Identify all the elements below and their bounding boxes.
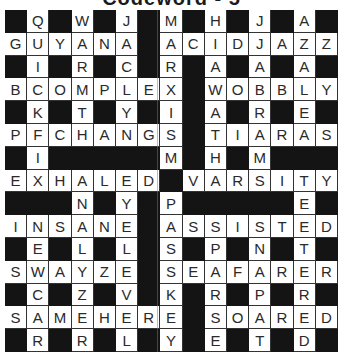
- letter-cell[interactable]: A: [27, 306, 49, 329]
- letter-cell[interactable]: L: [116, 238, 138, 261]
- letter-cell[interactable]: Z: [316, 33, 338, 56]
- letter-cell[interactable]: S: [160, 124, 182, 147]
- letter-cell[interactable]: R: [72, 56, 94, 79]
- letter-cell[interactable]: R: [138, 306, 160, 329]
- letter-cell[interactable]: M: [249, 147, 271, 170]
- letter-cell[interactable]: A: [160, 33, 182, 56]
- letter-cell[interactable]: U: [27, 33, 49, 56]
- letter-cell[interactable]: P: [249, 284, 271, 307]
- letter-cell[interactable]: R: [271, 306, 293, 329]
- letter-cell[interactable]: B: [271, 78, 293, 101]
- letter-cell[interactable]: S: [160, 238, 182, 261]
- letter-cell[interactable]: S: [5, 261, 27, 284]
- letter-cell[interactable]: M: [49, 306, 71, 329]
- letter-cell[interactable]: F: [227, 261, 249, 284]
- letter-cell[interactable]: C: [27, 78, 49, 101]
- letter-cell[interactable]: N: [72, 192, 94, 215]
- letter-cell[interactable]: I: [27, 147, 49, 170]
- letter-cell[interactable]: S: [49, 215, 71, 238]
- letter-cell[interactable]: E: [116, 261, 138, 284]
- letter-cell[interactable]: H: [205, 10, 227, 33]
- letter-cell[interactable]: R: [249, 101, 271, 124]
- letter-cell[interactable]: G: [138, 124, 160, 147]
- letter-cell[interactable]: Z: [294, 33, 316, 56]
- letter-cell[interactable]: I: [205, 33, 227, 56]
- letter-cell[interactable]: L: [294, 78, 316, 101]
- letter-cell[interactable]: O: [227, 306, 249, 329]
- letter-cell[interactable]: E: [183, 261, 205, 284]
- letter-cell[interactable]: L: [72, 238, 94, 261]
- letter-cell[interactable]: I: [227, 215, 249, 238]
- letter-cell[interactable]: Z: [72, 284, 94, 307]
- letter-cell[interactable]: A: [160, 215, 182, 238]
- letter-cell[interactable]: R: [227, 170, 249, 193]
- letter-cell[interactable]: A: [249, 306, 271, 329]
- letter-cell[interactable]: A: [294, 56, 316, 79]
- letter-cell[interactable]: E: [294, 261, 316, 284]
- letter-cell[interactable]: N: [249, 238, 271, 261]
- letter-cell[interactable]: J: [116, 10, 138, 33]
- letter-cell[interactable]: Q: [27, 10, 49, 33]
- letter-cell[interactable]: L: [116, 78, 138, 101]
- letter-cell[interactable]: D: [316, 306, 338, 329]
- letter-cell[interactable]: V: [183, 170, 205, 193]
- letter-cell[interactable]: W: [205, 78, 227, 101]
- letter-cell[interactable]: E: [138, 78, 160, 101]
- letter-cell[interactable]: E: [27, 238, 49, 261]
- letter-cell[interactable]: A: [116, 33, 138, 56]
- letter-cell[interactable]: E: [294, 101, 316, 124]
- letter-cell[interactable]: P: [94, 78, 116, 101]
- letter-cell[interactable]: P: [5, 124, 27, 147]
- letter-cell[interactable]: D: [294, 329, 316, 352]
- letter-cell[interactable]: R: [271, 261, 293, 284]
- letter-cell[interactable]: S: [205, 306, 227, 329]
- letter-cell[interactable]: E: [294, 215, 316, 238]
- letter-cell[interactable]: S: [249, 215, 271, 238]
- letter-cell[interactable]: Z: [94, 261, 116, 284]
- letter-cell[interactable]: P: [160, 192, 182, 215]
- letter-cell[interactable]: B: [249, 78, 271, 101]
- letter-cell[interactable]: T: [249, 329, 271, 352]
- letter-cell[interactable]: O: [227, 78, 249, 101]
- letter-cell[interactable]: T: [271, 215, 293, 238]
- letter-cell[interactable]: H: [72, 124, 94, 147]
- letter-cell[interactable]: Y: [116, 192, 138, 215]
- letter-cell[interactable]: R: [205, 284, 227, 307]
- letter-cell[interactable]: A: [72, 215, 94, 238]
- letter-cell[interactable]: X: [27, 170, 49, 193]
- letter-cell[interactable]: E: [205, 329, 227, 352]
- letter-cell[interactable]: A: [294, 10, 316, 33]
- letter-cell[interactable]: M: [160, 147, 182, 170]
- letter-cell[interactable]: R: [160, 56, 182, 79]
- letter-cell[interactable]: Y: [49, 33, 71, 56]
- letter-cell[interactable]: R: [27, 329, 49, 352]
- letter-cell[interactable]: C: [116, 56, 138, 79]
- letter-cell[interactable]: F: [27, 124, 49, 147]
- letter-cell[interactable]: A: [249, 261, 271, 284]
- letter-cell[interactable]: Y: [72, 261, 94, 284]
- letter-cell[interactable]: A: [94, 124, 116, 147]
- letter-cell[interactable]: Y: [316, 78, 338, 101]
- letter-cell[interactable]: N: [116, 124, 138, 147]
- letter-cell[interactable]: C: [27, 284, 49, 307]
- letter-cell[interactable]: E: [116, 170, 138, 193]
- letter-cell[interactable]: A: [205, 170, 227, 193]
- letter-cell[interactable]: D: [138, 170, 160, 193]
- letter-cell[interactable]: J: [249, 10, 271, 33]
- letter-cell[interactable]: T: [72, 101, 94, 124]
- letter-cell[interactable]: S: [205, 215, 227, 238]
- letter-cell[interactable]: N: [94, 33, 116, 56]
- letter-cell[interactable]: A: [49, 261, 71, 284]
- letter-cell[interactable]: D: [227, 33, 249, 56]
- letter-cell[interactable]: V: [116, 284, 138, 307]
- letter-cell[interactable]: R: [72, 329, 94, 352]
- letter-cell[interactable]: E: [72, 306, 94, 329]
- letter-cell[interactable]: N: [94, 215, 116, 238]
- letter-cell[interactable]: R: [316, 261, 338, 284]
- letter-cell[interactable]: C: [49, 124, 71, 147]
- letter-cell[interactable]: A: [271, 33, 293, 56]
- letter-cell[interactable]: A: [205, 101, 227, 124]
- letter-cell[interactable]: A: [205, 56, 227, 79]
- letter-cell[interactable]: L: [94, 170, 116, 193]
- letter-cell[interactable]: S: [249, 170, 271, 193]
